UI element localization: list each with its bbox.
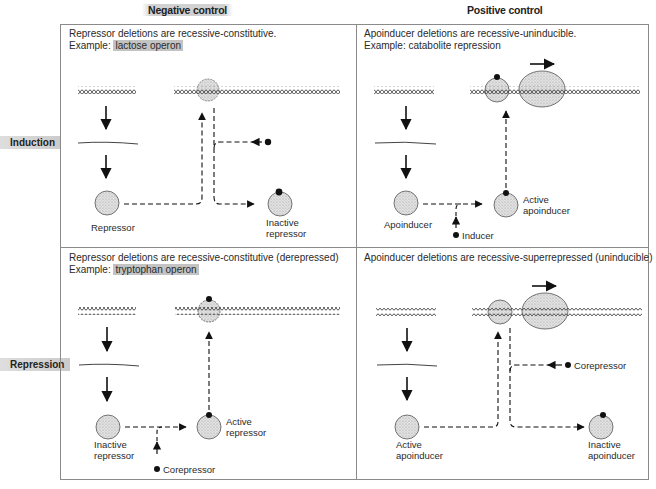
arrow-icon: [157, 427, 162, 448]
label-repressor: repressor: [226, 427, 266, 438]
protein-sphere-icon: [494, 193, 518, 217]
ligand-dot-icon: [453, 232, 459, 238]
ligand-dot-icon: [494, 74, 500, 80]
ligand-dot-icon: [154, 466, 160, 472]
ligand-dot-icon: [503, 190, 509, 196]
arrow-icon: [214, 108, 254, 204]
label-repressor: repressor: [266, 228, 306, 239]
dna-double-helix-icon: [175, 307, 340, 315]
regulation-diagrams: Repressor Inactive repressor Inducer Apo…: [0, 0, 656, 489]
ligand-dot-icon: [565, 362, 571, 368]
dna-double-helix-icon: [376, 308, 436, 316]
protein-sphere-icon: [589, 415, 613, 439]
label-inactive: Inactive: [266, 217, 299, 228]
arrow-icon: [510, 328, 584, 427]
label-corepressor: Corepressor: [163, 464, 215, 475]
mrna-strand-icon: [375, 142, 436, 144]
label-repressor: Repressor: [91, 222, 135, 233]
label-apoinducer: apoinducer: [588, 450, 635, 461]
label-active: Active: [226, 416, 252, 427]
protein-sphere-icon: [395, 415, 419, 439]
dna-double-helix-icon: [78, 307, 136, 315]
ligand-dot-icon: [265, 139, 271, 145]
mrna-strand-icon: [377, 364, 437, 366]
protein-sphere-icon: [394, 191, 418, 215]
label-active: Active: [523, 194, 549, 205]
mrna-strand-icon: [79, 364, 139, 366]
protein-sphere-icon: [197, 415, 221, 439]
dna-double-helix-icon: [470, 86, 640, 94]
pos-induction-diagram: Inducer Apoinducer Active apoinducer: [374, 64, 640, 241]
protein-sphere-icon: [95, 191, 119, 215]
dna-double-helix-icon: [472, 308, 642, 316]
arrow-icon: [510, 365, 552, 371]
protein-sphere-icon: [268, 192, 292, 216]
dna-double-helix-icon: [374, 86, 434, 94]
neg-induction-diagram: Repressor Inactive repressor: [78, 79, 340, 239]
label-active: Active: [396, 439, 422, 450]
label-apoinducer: apoinducer: [396, 450, 443, 461]
arrow-icon: [424, 332, 498, 427]
label-corepressor: Corepressor: [574, 360, 626, 371]
arrow-icon: [456, 204, 461, 223]
ligand-dot-icon: [206, 412, 212, 418]
arrow-icon: [124, 113, 202, 204]
protein-sphere-icon: [96, 415, 120, 439]
mrna-strand-icon: [78, 142, 138, 144]
ligand-dot-icon: [206, 296, 212, 302]
label-apoinducer: apoinducer: [523, 205, 570, 216]
dna-double-helix-icon: [78, 86, 136, 94]
pos-repression-diagram: Corepressor Active apoinducer Inactive a…: [376, 286, 642, 461]
label-apoinducer: Apoinducer: [384, 219, 432, 230]
dna-double-helix-icon: [174, 86, 340, 94]
label-inactive: Inactive: [94, 439, 127, 450]
label-inducer: Inducer: [462, 230, 494, 241]
neg-repression-diagram: Corepressor Inactive repressor Active re…: [78, 296, 340, 475]
label-repressor: repressor: [94, 450, 134, 461]
arrow-icon: [214, 142, 256, 148]
ligand-dot-icon: [276, 189, 283, 196]
ligand-dot-icon: [600, 412, 606, 418]
label-inactive: Inactive: [588, 439, 621, 450]
